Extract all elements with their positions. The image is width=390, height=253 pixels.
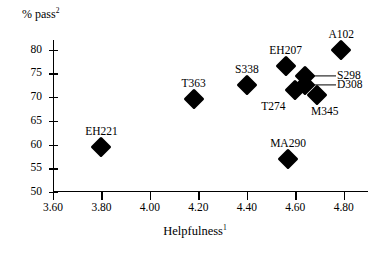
- y-tick: 55: [49, 168, 58, 169]
- data-point-label: T274: [261, 101, 285, 113]
- x-tick-label: 4.80: [334, 202, 354, 214]
- data-point-label: MA290: [270, 137, 306, 149]
- data-point-label: M345: [311, 106, 338, 118]
- data-point-label: T363: [181, 78, 205, 90]
- data-point-marker: [183, 89, 204, 110]
- label-leader-line: [314, 75, 336, 76]
- data-point-label: S338: [235, 64, 259, 76]
- y-axis-title-text: % pass: [22, 7, 56, 21]
- x-tick: 3.60: [53, 191, 54, 200]
- x-tick: 4.20: [198, 191, 199, 200]
- data-point-marker: [236, 75, 257, 96]
- y-tick: 60: [49, 145, 58, 146]
- y-tick: 75: [49, 73, 58, 74]
- data-point-marker: [331, 39, 352, 60]
- x-tick-label: 3.80: [91, 202, 111, 214]
- y-axis-title: % pass2: [22, 8, 59, 20]
- y-tick-label: 60: [31, 139, 43, 151]
- x-tick-label: 4.60: [285, 202, 305, 214]
- y-tick: 70: [49, 97, 58, 98]
- scatter-plot-figure: % pass2 50556065707580 3.603.804.004.204…: [0, 0, 390, 253]
- label-leader-line: [314, 85, 336, 86]
- plot-area: 50556065707580 3.603.804.004.204.404.604…: [53, 40, 368, 192]
- x-axis-line: [53, 191, 368, 192]
- x-tick-label: 4.00: [140, 202, 160, 214]
- y-tick-label: 50: [31, 186, 43, 198]
- y-tick-label: 65: [31, 115, 43, 127]
- y-axis-title-superscript: 2: [56, 6, 60, 15]
- data-point-label: EH207: [269, 45, 302, 57]
- data-point-label: D308: [337, 79, 363, 91]
- x-axis-title: Helpfulness1: [0, 225, 390, 238]
- x-tick: 4.60: [295, 191, 296, 200]
- data-point-label: A102: [329, 28, 355, 40]
- y-tick-label: 70: [31, 91, 43, 103]
- x-tick-label: 4.20: [188, 202, 208, 214]
- x-axis-title-superscript: 1: [223, 223, 227, 232]
- y-tick-label: 55: [31, 163, 43, 175]
- x-tick: 4.80: [344, 191, 345, 200]
- data-point-marker: [91, 136, 112, 157]
- data-point-marker: [275, 56, 296, 77]
- x-tick-label: 4.40: [237, 202, 257, 214]
- data-point-label: EH221: [85, 125, 118, 137]
- y-tick-label: 80: [31, 44, 43, 56]
- x-axis-title-text: Helpfulness: [163, 224, 223, 238]
- x-tick: 4.40: [247, 191, 248, 200]
- y-tick-label: 75: [31, 68, 43, 80]
- x-tick-label: 3.60: [43, 202, 63, 214]
- x-tick: 4.00: [150, 191, 151, 200]
- data-point-marker: [277, 148, 298, 169]
- y-tick: 80: [49, 50, 58, 51]
- y-tick: 65: [49, 121, 58, 122]
- x-tick: 3.80: [101, 191, 102, 200]
